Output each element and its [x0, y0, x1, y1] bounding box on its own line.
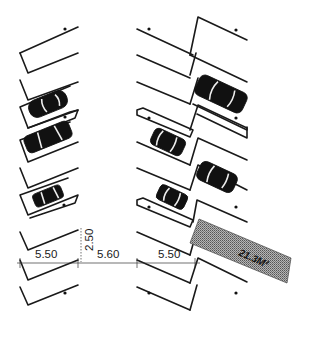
dim-aisle-width: 5.60: [97, 248, 119, 260]
dim-stall-depth-left: 5.50: [35, 248, 57, 260]
marker-dot: [234, 205, 237, 208]
dimension-line: 5.50 5.60 5.50 2.50: [17, 228, 200, 268]
car-3: [31, 184, 64, 208]
marker-dot: [234, 291, 237, 294]
marker-dot: [62, 203, 65, 206]
parking-layout-diagram: 21.3M² 5.50 5.60 5.50 2.50: [0, 0, 315, 339]
marker-dot: [234, 116, 237, 119]
marker-dot: [147, 27, 150, 30]
car-5: [149, 127, 187, 158]
right-stall-row: [137, 17, 247, 310]
marker-dot: [147, 116, 150, 119]
marker-dot: [147, 205, 150, 208]
marker-dot: [63, 27, 66, 30]
marker-dot: [234, 28, 237, 31]
car-6: [195, 159, 240, 194]
marker-dot: [147, 291, 150, 294]
dim-stall-depth-right: 5.50: [158, 248, 180, 260]
dim-stall-width: 2.50: [83, 229, 95, 251]
hatched-area: 21.3M²: [190, 219, 291, 283]
car-2: [22, 120, 73, 155]
marker-dot: [63, 115, 66, 118]
marker-dot: [63, 291, 66, 294]
